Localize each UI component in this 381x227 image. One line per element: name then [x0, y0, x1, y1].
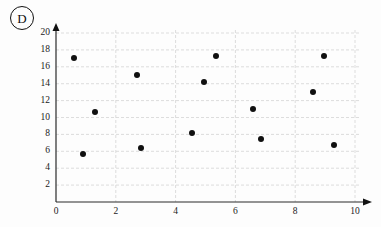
data-point	[189, 130, 195, 136]
y-tick-label: 4	[30, 163, 50, 173]
y-tick-label: 14	[30, 79, 50, 89]
data-point	[134, 72, 140, 78]
horizontal-gridlines	[56, 33, 359, 185]
data-point	[258, 136, 264, 142]
figure-panel: D 2468101214161820 0246810	[0, 0, 381, 227]
y-tick-label: 10	[30, 113, 50, 123]
data-point	[213, 53, 219, 59]
x-tick-label: 8	[283, 207, 307, 217]
data-point	[201, 79, 207, 85]
x-tick-label: 6	[223, 207, 247, 217]
axis-lines	[53, 23, 373, 206]
x-tick-label: 4	[164, 207, 188, 217]
x-tick-label: 2	[104, 207, 128, 217]
scatter-plot: 2468101214161820 0246810	[0, 0, 381, 227]
x-axis-arrowhead	[363, 199, 372, 206]
y-tick-label: 6	[30, 146, 50, 156]
x-tick-label: 0	[44, 207, 68, 217]
vertical-gridlines	[116, 30, 355, 202]
y-tick-label: 12	[30, 96, 50, 106]
data-point	[321, 53, 327, 59]
y-tick-label: 16	[30, 62, 50, 72]
plot-canvas	[0, 0, 381, 227]
y-tick-label: 2	[30, 180, 50, 190]
x-tick-label: 10	[343, 207, 367, 217]
data-point	[331, 142, 337, 148]
y-tick-label: 20	[30, 28, 50, 38]
y-axis-arrowhead	[53, 23, 60, 31]
data-point	[92, 109, 98, 115]
y-tick-label: 18	[30, 45, 50, 55]
y-tick-label: 8	[30, 129, 50, 139]
data-point	[80, 151, 86, 157]
